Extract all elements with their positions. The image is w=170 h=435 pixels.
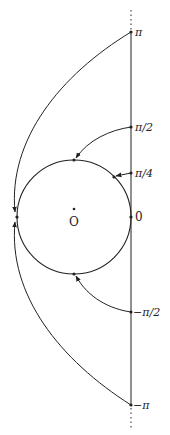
label-pi-quarter: π/4 <box>134 167 153 180</box>
circle-point-top <box>72 158 75 161</box>
arrow-neg-pi-half-to-bottom <box>76 276 131 312</box>
arrow-pi-half-to-top <box>76 127 131 158</box>
center-dot <box>73 208 76 211</box>
circle-mapping-diagram: O π π/2 π/4 0 −π/2 −π <box>0 0 170 435</box>
label-neg-pi: −π <box>133 399 150 412</box>
point-zero <box>129 215 132 218</box>
arrow-pi-to-left <box>14 32 131 212</box>
arrow-neg-pi-to-left <box>14 222 131 405</box>
label-neg-pi-half: −π/2 <box>133 306 160 319</box>
label-zero: 0 <box>135 210 143 224</box>
label-pi-half: π/2 <box>134 121 153 134</box>
circle-point-quarter <box>112 175 115 178</box>
circle-point-bottom <box>72 272 75 275</box>
center-label: O <box>69 215 79 229</box>
arrow-pi-quarter-to-circle <box>116 173 131 176</box>
circle-point-left <box>15 215 18 218</box>
label-pi: π <box>134 26 143 39</box>
